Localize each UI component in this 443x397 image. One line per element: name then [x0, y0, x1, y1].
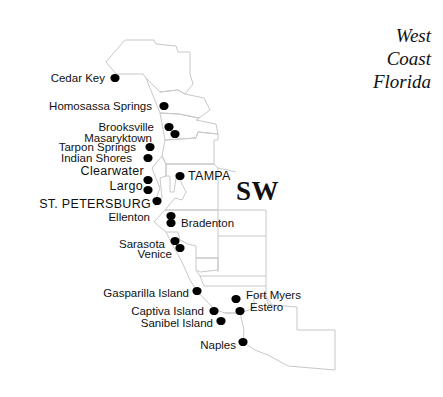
city-dot-icon — [143, 186, 152, 194]
city-dot-icon — [170, 237, 179, 245]
city-dot-icon — [192, 287, 201, 295]
title-line-florida: Florida — [373, 70, 431, 93]
map-title: West Coast Florida — [373, 24, 431, 93]
city-dot-icon — [238, 338, 247, 346]
city-dot-icon — [166, 212, 175, 220]
county-boundary — [146, 78, 210, 118]
city-st-petersburg: ST. PETERSBURG — [39, 197, 161, 211]
county-boundary — [162, 132, 218, 164]
city-label: TAMPA — [188, 169, 231, 183]
title-line-west: West — [373, 24, 431, 47]
city-dot-icon — [110, 74, 119, 82]
city-cedar-key: Cedar Key — [51, 72, 120, 84]
city-label: Captiva Island — [131, 305, 204, 317]
city-dot-icon — [209, 307, 218, 315]
city-dot-icon — [235, 307, 244, 315]
city-label: Homosassa Springs — [49, 100, 152, 112]
city-label: Fort Myers — [246, 289, 301, 301]
city-dot-icon — [175, 244, 184, 252]
city-label: Venice — [137, 248, 172, 260]
city-sanibel-island: Sanibel Island — [141, 317, 226, 329]
city-label: Sanibel Island — [141, 317, 213, 329]
city-label: Gasparilla Island — [103, 287, 189, 299]
city-indian-shores: Indian Shores — [61, 152, 153, 164]
region-label-sw: SW — [236, 176, 279, 207]
city-dot-icon — [143, 154, 152, 162]
city-naples: Naples — [200, 338, 247, 351]
city-label: Naples — [200, 339, 236, 351]
city-gasparilla-island: Gasparilla Island — [103, 287, 201, 299]
city-label: Clearwater — [81, 164, 144, 178]
city-dot-icon — [170, 130, 179, 138]
city-ellenton: Ellenton — [108, 211, 175, 223]
city-estero: Estero — [235, 301, 283, 315]
city-homosassa-springs: Homosassa Springs — [49, 100, 169, 112]
city-dot-icon — [159, 102, 168, 110]
city-dot-icon — [231, 295, 240, 303]
city-dot-icon — [166, 219, 175, 227]
city-bradenton: Bradenton — [166, 217, 234, 229]
city-dot-icon — [164, 123, 173, 131]
city-dot-icon — [145, 143, 154, 151]
city-dot-icon — [216, 317, 225, 325]
title-line-coast: Coast — [373, 47, 431, 70]
city-label: Estero — [250, 301, 283, 313]
city-dot-icon — [175, 172, 184, 180]
city-label: Cedar Key — [51, 72, 106, 84]
county-boundary — [196, 236, 266, 276]
city-captiva-island: Captiva Island — [131, 305, 218, 317]
city-dot-icon — [152, 197, 161, 205]
city-label: Ellenton — [108, 211, 150, 223]
county-boundary — [196, 258, 218, 272]
city-label: Largo — [110, 179, 143, 193]
county-boundary — [200, 276, 266, 286]
city-label: ST. PETERSBURG — [39, 197, 151, 211]
city-label: Bradenton — [181, 217, 234, 229]
city-dot-icon — [143, 176, 152, 184]
city-label: Indian Shores — [61, 152, 132, 164]
city-tampa: TAMPA — [175, 169, 231, 183]
